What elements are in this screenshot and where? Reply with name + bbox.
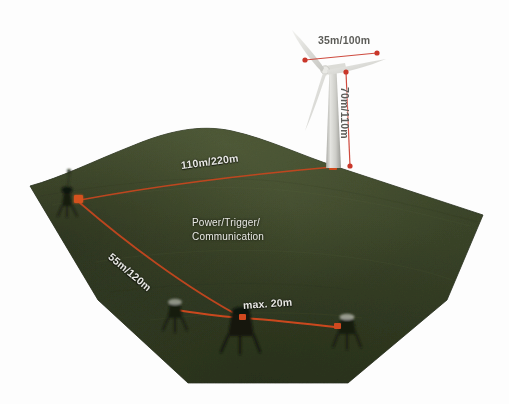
wind-turbine	[0, 0, 509, 404]
turbine-blade-upper	[292, 30, 324, 72]
turbine-tower	[326, 70, 341, 168]
hub-height-dimension	[343, 69, 352, 168]
diagram-canvas: 35m/100m 70m/110m 110m/220m Power/Trigge…	[0, 0, 509, 404]
turbine-blade-lower	[305, 73, 326, 131]
